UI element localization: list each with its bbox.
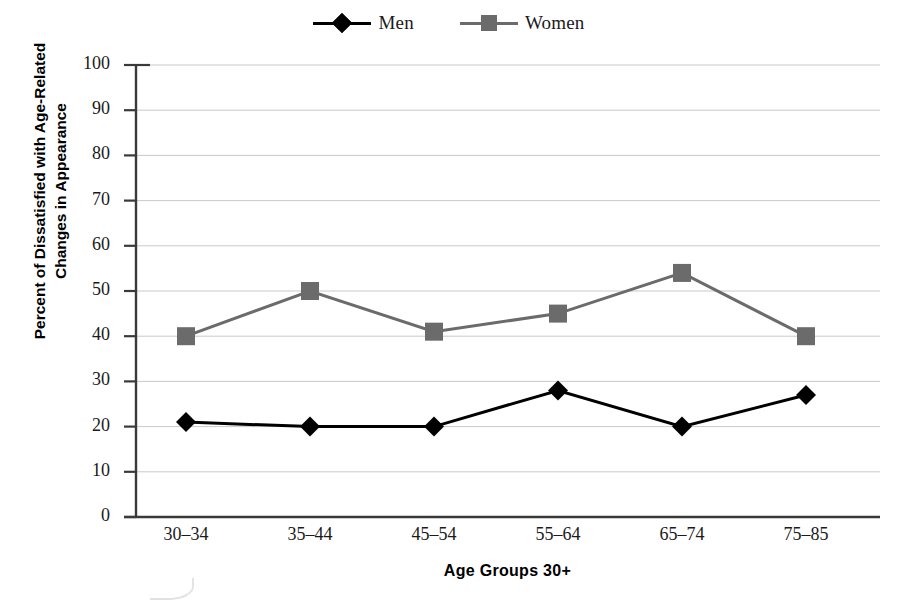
y-tick-label: 30 [68,369,110,390]
y-tick-label: 50 [68,279,110,300]
y-axis-ticks [124,65,136,517]
plot-area: Percent of Dissatisfied with Age-Related… [0,0,898,604]
x-tick-label: 30–34 [126,524,246,545]
y-axis-title-line1: Percent of Dissatisfied with Age-Related [31,43,48,340]
series-line-women [186,273,806,336]
data-point-men [176,412,196,432]
x-tick-label: 55–64 [498,524,618,545]
data-point-men [300,417,320,437]
data-point-women [301,282,319,300]
data-point-men [548,380,568,400]
data-point-men [424,417,444,437]
x-axis-title: Age Groups 30+ [135,562,880,580]
y-tick-label: 10 [68,460,110,481]
y-tick-label: 20 [68,415,110,436]
chart-figure: Men Women Percent of Dissatisfied with A… [0,0,898,604]
x-tick-label: 75–85 [746,524,866,545]
data-point-women [673,264,691,282]
y-tick-label: 40 [68,324,110,345]
gridlines [136,65,880,472]
y-axis-title: Percent of Dissatisfied with Age-Related… [29,0,71,391]
data-point-women [177,327,195,345]
y-tick-label: 100 [68,53,110,74]
data-point-women [549,305,567,323]
data-point-men [672,417,692,437]
y-tick-label: 70 [68,189,110,210]
y-tick-label: 90 [68,98,110,119]
x-tick-label: 35–44 [250,524,370,545]
y-tick-label: 60 [68,234,110,255]
data-point-women [797,327,815,345]
chart-canvas [0,0,898,604]
series-line-men [186,390,806,426]
data-point-men [796,385,816,405]
data-point-women [425,323,443,341]
x-tick-label: 45–54 [374,524,494,545]
data-series-layer [176,264,816,437]
y-axis-title-line2: Changes in Appearance [52,103,69,279]
y-tick-label: 0 [68,505,110,526]
x-tick-label: 65–74 [622,524,742,545]
y-tick-label: 80 [68,143,110,164]
